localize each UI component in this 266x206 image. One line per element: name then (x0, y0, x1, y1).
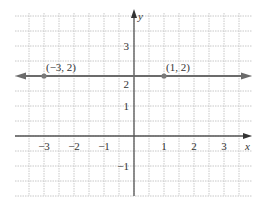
y-tick-label: 2 (124, 78, 130, 90)
x-axis-label: x (244, 140, 250, 152)
x-tick-label: −3 (38, 140, 50, 152)
point-label: (1, 2) (166, 61, 190, 74)
data-point (161, 73, 166, 78)
line-right-arrow-icon (241, 73, 252, 80)
x-tick-label: 3 (221, 140, 227, 152)
y-tick-label: 1 (124, 100, 130, 112)
x-tick-label: −1 (98, 140, 110, 152)
data-point (41, 73, 46, 78)
y-tick-label: 3 (124, 40, 130, 52)
x-tick-label: 2 (191, 140, 197, 152)
line-left-arrow-icon (15, 73, 26, 80)
coordinate-plane: (−3, 2)(1, 2) −3−2−1123−1123xy (0, 0, 266, 206)
point-label: (−3, 2) (46, 61, 76, 74)
x-tick-label: 1 (161, 140, 167, 152)
x-tick-label: −2 (68, 140, 80, 152)
x-axis-arrow-icon (243, 133, 252, 139)
y-tick-label: −1 (117, 160, 129, 172)
axes (15, 9, 252, 196)
y-axis-arrow-icon (131, 9, 137, 18)
y-axis-label: y (137, 10, 143, 22)
